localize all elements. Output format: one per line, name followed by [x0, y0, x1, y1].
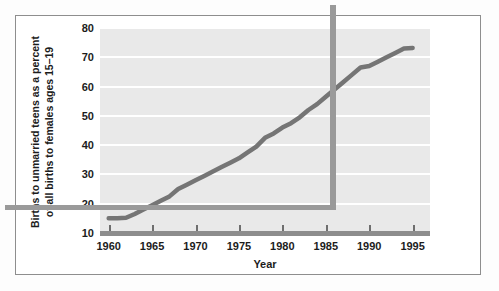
x-tick-mark [196, 225, 198, 231]
x-tick-mark [326, 225, 328, 231]
x-tick-label: 1980 [262, 240, 302, 252]
y-tick-label: 50 [68, 111, 94, 122]
data-series-line [100, 28, 430, 233]
plot-area [100, 28, 430, 233]
x-tick-label: 1985 [306, 240, 346, 252]
y-tick-label: 10 [68, 228, 94, 239]
x-tick-mark [152, 225, 154, 231]
y-axis-label-line1: Births to unmarried teens as a percent [29, 36, 41, 228]
y-tick-label: 60 [68, 82, 94, 93]
x-tick-label: 1960 [89, 240, 129, 252]
x-tick-label: 1975 [219, 240, 259, 252]
x-axis-bar [100, 231, 430, 236]
x-tick-mark [413, 225, 415, 231]
x-tick-mark [369, 225, 371, 231]
y-tick-label: 80 [68, 23, 94, 34]
x-tick-mark [239, 225, 241, 231]
y-tick-label: 30 [68, 169, 94, 180]
y-axis-label-line2: of all births to females ages 15–19 [43, 47, 55, 217]
y-tick-label: 40 [68, 140, 94, 151]
y-tick-label: 70 [68, 52, 94, 63]
x-tick-label: 1995 [393, 240, 433, 252]
x-tick-label: 1965 [132, 240, 172, 252]
figure-canvas: Births to unmarried teens as a percentof… [0, 0, 499, 291]
plot-shadow-right [330, 5, 336, 210]
x-tick-mark [109, 225, 111, 231]
x-tick-label: 1990 [349, 240, 389, 252]
x-tick-mark [282, 225, 284, 231]
x-tick-label: 1970 [176, 240, 216, 252]
plot-shadow-bottom [5, 205, 336, 210]
x-axis-label: Year [100, 258, 430, 270]
y-axis-ticks: 1020304050607080 [62, 28, 94, 233]
